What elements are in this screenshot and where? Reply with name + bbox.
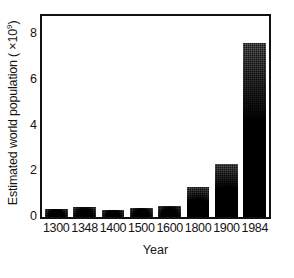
bar-1348	[73, 207, 96, 217]
y-axis-tick-label: 8	[21, 27, 37, 40]
multiplication-sign: ×	[5, 42, 19, 49]
y-axis-title-close-paren: )	[5, 20, 19, 24]
bar-1900	[215, 164, 238, 217]
y-axis-scale-exponent: 9	[4, 24, 13, 28]
y-axis-tick-label: 2	[21, 164, 37, 177]
bar-1500	[130, 208, 153, 217]
chart-figure: Estimated world population ( ×109) 02468…	[0, 0, 294, 278]
bar-1984	[243, 43, 266, 217]
y-axis-tick-label: 4	[21, 119, 37, 132]
y-axis-title: Estimated world population ( ×109)	[5, 20, 19, 205]
bar-1300	[45, 209, 68, 217]
y-axis-title-text: Estimated world population (	[5, 49, 19, 204]
x-axis-tick-labels: 13001348140015001600180019001984	[40, 222, 271, 240]
y-axis-tick-labels: 02468	[20, 0, 37, 278]
x-axis-title: Year	[40, 243, 271, 257]
x-axis-tick-label: 1984	[239, 222, 271, 235]
y-axis-scale-base: 10	[5, 29, 19, 43]
bar-1400	[102, 210, 125, 217]
plot-area	[40, 14, 271, 219]
bar-1600	[158, 206, 181, 217]
bar-1800	[187, 187, 210, 217]
y-axis-tick-label: 0	[21, 210, 37, 223]
y-axis-tick-label: 6	[21, 73, 37, 86]
